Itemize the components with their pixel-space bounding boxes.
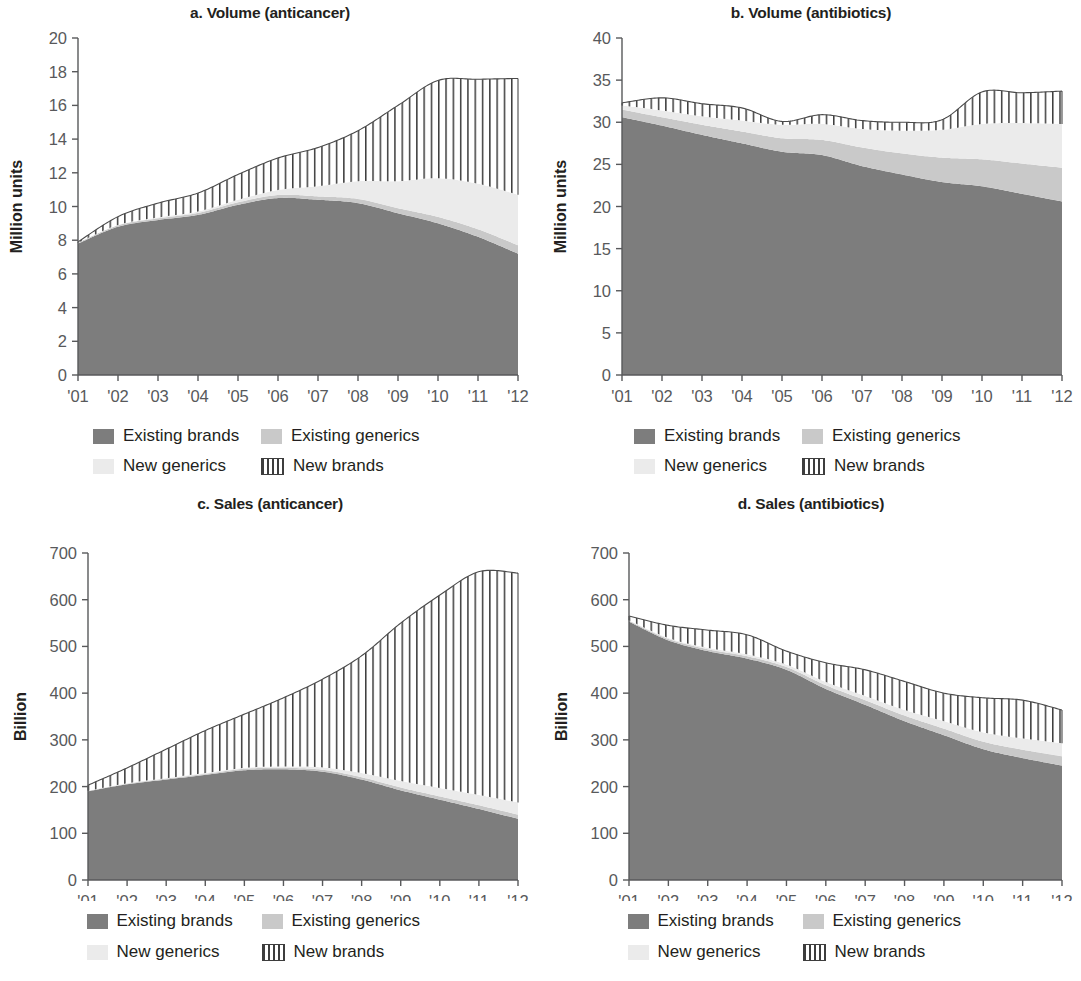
svg-text:4: 4 (58, 299, 67, 317)
legend-row-2: New generics New brands (541, 456, 1081, 476)
legend-item-existing-generics[interactable]: Existing generics (261, 426, 447, 446)
legend-item-new-generics[interactable]: New generics (93, 456, 261, 476)
svg-text:6: 6 (58, 265, 67, 283)
existing-generics-swatch-icon (802, 429, 823, 444)
svg-text:'12: '12 (1051, 387, 1073, 405)
panel-a-legend: Existing brands Existing generics New ge… (0, 426, 540, 476)
svg-text:'09: '09 (390, 892, 412, 901)
legend-label-existing-generics: Existing generics (832, 426, 961, 446)
legend-row-1: Existing brands Existing generics (0, 426, 540, 446)
panel-b-volume-antibiotics: b. Volume (antibiotics) 0510152025303540… (541, 0, 1081, 490)
panel-d-legend: Existing brands Existing generics New ge… (541, 911, 1081, 962)
legend-item-existing-generics[interactable]: Existing generics (802, 426, 988, 446)
svg-text:10: 10 (49, 198, 67, 216)
existing-generics-swatch-icon (261, 429, 282, 444)
svg-text:'05: '05 (234, 892, 256, 901)
existing-brands-swatch-icon (87, 914, 108, 929)
svg-text:20: 20 (593, 198, 611, 216)
panel-a-volume-anticancer: a. Volume (anticancer) 02468101214161820… (0, 0, 540, 490)
svg-text:'08: '08 (891, 387, 913, 405)
legend-item-existing-brands[interactable]: Existing brands (628, 911, 803, 931)
svg-text:18: 18 (49, 63, 67, 81)
legend-label-new-brands: New brands (293, 456, 384, 476)
svg-text:'02: '02 (107, 387, 129, 405)
svg-text:'09: '09 (387, 387, 409, 405)
legend-label-existing-brands: Existing brands (664, 426, 780, 446)
svg-text:400: 400 (49, 684, 77, 702)
new-brands-swatch-icon (261, 458, 284, 475)
svg-text:100: 100 (590, 824, 618, 842)
legend-row-1: Existing brands Existing generics (541, 911, 1081, 931)
svg-text:'12: '12 (507, 387, 529, 405)
svg-text:'03: '03 (691, 387, 713, 405)
legend-item-existing-generics[interactable]: Existing generics (803, 911, 995, 931)
svg-text:35: 35 (593, 71, 611, 89)
svg-text:'11: '11 (468, 387, 488, 405)
panel-c-chart: 0100200300400500600700'01'02'03'04'05'06… (0, 491, 540, 901)
svg-text:'08: '08 (347, 387, 369, 405)
legend-label-existing-generics: Existing generics (833, 911, 962, 931)
legend-item-existing-brands[interactable]: Existing brands (634, 426, 802, 446)
legend-label-new-brands: New brands (835, 942, 926, 962)
legend-item-new-brands[interactable]: New brands (261, 456, 447, 476)
existing-generics-swatch-icon (262, 914, 283, 929)
legend-item-existing-brands[interactable]: Existing brands (93, 426, 261, 446)
legend-item-existing-brands[interactable]: Existing brands (87, 911, 262, 931)
svg-text:'10: '10 (427, 387, 449, 405)
existing-generics-swatch-icon (803, 914, 824, 929)
legend-label-existing-brands: Existing brands (123, 426, 239, 446)
legend-row-1: Existing brands Existing generics (0, 911, 540, 931)
svg-text:'07: '07 (312, 892, 334, 901)
svg-text:Million units: Million units (552, 160, 569, 253)
legend-label-new-brands: New brands (834, 456, 925, 476)
legend-item-existing-generics[interactable]: Existing generics (262, 911, 454, 931)
panel-d-sales-antibiotics: d. Sales (antibiotics) 01002003004005006… (541, 491, 1081, 981)
existing-brands-swatch-icon (628, 914, 649, 929)
svg-text:40: 40 (593, 29, 611, 47)
svg-text:2: 2 (58, 332, 67, 350)
svg-text:'06: '06 (273, 892, 295, 901)
legend-item-new-generics[interactable]: New generics (628, 942, 803, 962)
svg-text:'05: '05 (227, 387, 249, 405)
existing-brands-swatch-icon (93, 429, 114, 444)
legend-item-new-brands[interactable]: New brands (262, 942, 454, 962)
svg-text:Million units: Million units (8, 160, 25, 253)
legend-item-new-generics[interactable]: New generics (634, 456, 802, 476)
legend-row-2: New generics New brands (0, 942, 540, 962)
figure-four-panel-stacked-area: a. Volume (anticancer) 02468101214161820… (0, 0, 1081, 981)
svg-text:'07: '07 (854, 892, 876, 901)
legend-row-2: New generics New brands (541, 942, 1081, 962)
legend-label-new-brands: New brands (294, 942, 385, 962)
svg-text:'10: '10 (971, 387, 993, 405)
svg-text:'04: '04 (736, 892, 758, 901)
svg-text:Billion: Billion (12, 692, 29, 741)
new-generics-swatch-icon (628, 945, 649, 960)
svg-text:'09: '09 (933, 892, 955, 901)
svg-text:'02: '02 (651, 387, 673, 405)
new-brands-swatch-icon (803, 944, 826, 961)
svg-text:200: 200 (590, 778, 618, 796)
svg-text:'08: '08 (351, 892, 373, 901)
panel-d-chart: 0100200300400500600700'01'02'03'04'05'06… (541, 491, 1081, 901)
svg-text:'08: '08 (894, 892, 916, 901)
svg-text:0: 0 (58, 366, 67, 384)
svg-text:25: 25 (593, 155, 611, 173)
svg-text:'03: '03 (155, 892, 177, 901)
svg-text:'03: '03 (697, 892, 719, 901)
legend-row-2: New generics New brands (0, 456, 540, 476)
new-generics-swatch-icon (87, 945, 108, 960)
svg-text:200: 200 (49, 778, 77, 796)
svg-text:500: 500 (49, 637, 77, 655)
svg-text:'05: '05 (776, 892, 798, 901)
svg-text:20: 20 (49, 29, 67, 47)
svg-text:'01: '01 (67, 387, 89, 405)
svg-text:300: 300 (590, 731, 618, 749)
svg-text:'01: '01 (618, 892, 640, 901)
legend-item-new-brands[interactable]: New brands (803, 942, 995, 962)
legend-item-new-generics[interactable]: New generics (87, 942, 262, 962)
svg-text:'02: '02 (658, 892, 680, 901)
svg-text:14: 14 (49, 130, 67, 148)
legend-label-new-generics: New generics (123, 456, 226, 476)
legend-item-new-brands[interactable]: New brands (802, 456, 988, 476)
panel-b-chart: 0510152025303540'01'02'03'04'05'06'07'08… (541, 0, 1081, 410)
